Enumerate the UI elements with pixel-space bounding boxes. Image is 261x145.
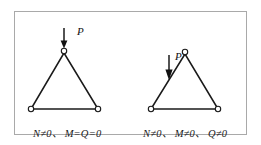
figure-root: P P N≠0、 M=Q=0 N≠0、 M≠0、 Q≠0 xyxy=(0,0,261,145)
left-load-label-P: P xyxy=(77,25,84,37)
right-truss-member-right-chord xyxy=(185,54,218,109)
right-panel-group xyxy=(148,49,220,111)
right-truss-base-left-node xyxy=(148,106,153,111)
truss-diagram-svg xyxy=(15,12,248,136)
right-load-label-P: P xyxy=(175,50,182,62)
right-truss-member-left-chord xyxy=(151,54,185,109)
left-panel-caption: N≠0、 M=Q=0 xyxy=(33,125,101,140)
right-panel-caption: N≠0、 M≠0、 Q≠0 xyxy=(143,125,227,140)
left-panel-group xyxy=(28,28,100,112)
left-load-arrow-head xyxy=(61,41,68,49)
left-truss-member-left-chord xyxy=(31,53,64,109)
figure-frame: P P N≠0、 M=Q=0 N≠0、 M≠0、 Q≠0 xyxy=(14,11,247,135)
left-truss-member-right-chord xyxy=(64,53,98,109)
diagram-panels xyxy=(15,12,246,134)
left-truss-base-left-node xyxy=(28,106,33,111)
right-truss-base-right-node xyxy=(215,106,220,111)
left-truss-apex-node xyxy=(61,48,66,53)
left-truss-base-right-node xyxy=(95,106,100,111)
right-truss-apex-node xyxy=(182,49,187,54)
